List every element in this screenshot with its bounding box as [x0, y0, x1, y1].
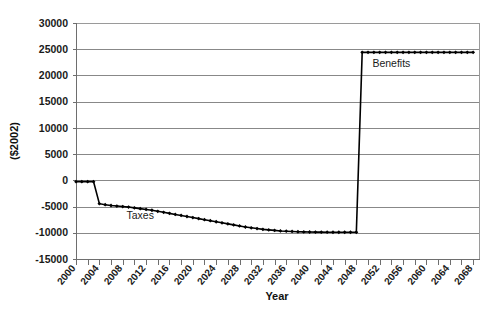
x-axis-tick-labels: 2000200420082012201620202024202820322036… [55, 262, 475, 286]
data-point-marker [384, 50, 388, 54]
x-tick-label: 2020 [172, 262, 195, 286]
series-annotation-taxes: Taxes [127, 209, 154, 221]
y-axis-tick-labels: 300002500020000150001000050000-5000-1000… [35, 17, 68, 265]
data-point-marker [279, 229, 283, 233]
data-point-marker [197, 217, 201, 221]
data-point-marker [173, 213, 177, 217]
x-tick-label: 2012 [125, 262, 148, 286]
x-tick-label: 2068 [452, 262, 475, 286]
x-tick-label: 2036 [265, 262, 288, 286]
data-point-marker [454, 50, 458, 54]
x-tick-label: 2016 [148, 262, 171, 286]
data-point-marker [208, 219, 212, 223]
x-tick-label: 2048 [335, 262, 358, 286]
x-tick-label: 2032 [242, 262, 265, 286]
data-point-marker [389, 50, 393, 54]
data-point-marker [103, 203, 107, 207]
data-point-marker [191, 216, 195, 220]
data-point-marker [401, 50, 405, 54]
data-point-marker [179, 214, 183, 218]
data-point-marker [448, 50, 452, 54]
line-chart: 300002500020000150001000050000-5000-1000… [0, 0, 501, 318]
data-point-marker [413, 50, 417, 54]
data-point-marker [372, 50, 376, 54]
data-point-marker [220, 221, 224, 225]
data-point-marker [226, 222, 230, 226]
series-annotation-benefits: Benefits [372, 57, 410, 69]
y-tick-label: 30000 [39, 17, 68, 29]
y-axis-title: ($2002) [8, 122, 20, 160]
plot-frame [77, 24, 480, 260]
series-line [76, 52, 473, 232]
data-point-marker [290, 230, 294, 234]
x-tick-label: 2040 [288, 262, 311, 286]
data-point-marker [360, 50, 364, 54]
x-tick-label: 2028 [218, 262, 241, 286]
x-tick-label: 2060 [405, 262, 428, 286]
data-point-marker [214, 220, 218, 224]
data-point-marker [378, 50, 382, 54]
data-point-marker [430, 50, 434, 54]
data-point-marker [203, 218, 207, 222]
x-axis-title: Year [265, 290, 289, 302]
x-tick-label: 2064 [429, 262, 452, 286]
gridlines [76, 24, 479, 234]
data-point-marker [465, 50, 469, 54]
data-point-marker [267, 228, 271, 232]
data-point-marker [471, 50, 475, 54]
data-point-marker [249, 226, 253, 230]
x-tick-label: 2000 [55, 262, 78, 286]
data-point-marker [460, 50, 464, 54]
x-tick-label: 2044 [312, 262, 335, 286]
y-tick-label: -5000 [41, 200, 68, 212]
x-tick-label: 2052 [359, 262, 382, 286]
data-point-marker [255, 227, 259, 231]
data-point-marker [425, 50, 429, 54]
data-point-marker [109, 204, 113, 208]
data-point-marker [185, 215, 189, 219]
data-point-marker [238, 224, 242, 228]
data-series [74, 50, 475, 234]
data-point-marker [243, 225, 247, 229]
data-point-marker [395, 50, 399, 54]
y-tick-label: -15000 [35, 253, 68, 265]
data-point-marker [436, 50, 440, 54]
data-point-marker [442, 50, 446, 54]
data-point-marker [284, 229, 288, 233]
data-point-marker [261, 227, 265, 231]
x-tick-label: 2024 [195, 262, 218, 286]
y-tick-label: -10000 [35, 226, 68, 238]
data-point-marker [407, 50, 411, 54]
y-tick-label: 25000 [39, 43, 68, 55]
chart-container: 300002500020000150001000050000-5000-1000… [0, 0, 501, 318]
data-point-marker [162, 210, 166, 214]
x-tick-label: 2008 [102, 262, 125, 286]
x-axis-ticks [73, 24, 474, 265]
x-tick-label: 2004 [78, 262, 101, 286]
series-annotations: TaxesBenefits [127, 57, 411, 221]
data-point-marker [419, 50, 423, 54]
y-tick-label: 10000 [39, 122, 68, 134]
data-point-marker [97, 202, 101, 206]
data-point-marker [156, 209, 160, 213]
data-point-marker [273, 229, 277, 233]
data-point-marker [168, 211, 172, 215]
y-tick-label: 0 [62, 174, 68, 186]
data-point-marker [232, 223, 236, 227]
y-tick-label: 20000 [39, 69, 68, 81]
data-point-marker [366, 50, 370, 54]
y-tick-label: 5000 [45, 148, 69, 160]
x-tick-label: 2056 [382, 262, 405, 286]
y-tick-label: 15000 [39, 95, 68, 107]
